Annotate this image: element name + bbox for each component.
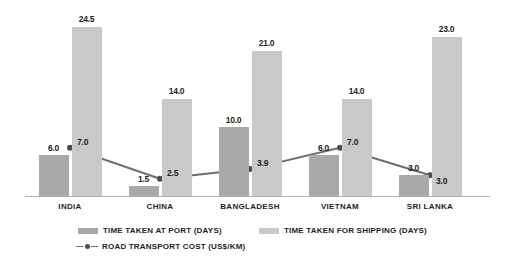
bar-value-port-china: 1.5 [129, 174, 159, 184]
bar-port-india [39, 155, 69, 196]
legend-item-time-taken-at-port[interactable]: TIME TAKEN AT PORT (DAYS) [78, 226, 222, 235]
line-path-road-transport-cost [70, 148, 430, 179]
x-axis-line [25, 196, 490, 197]
legend-label-shipping: TIME TAKEN FOR SHIPPING (DAYS) [284, 226, 427, 235]
bar-port-china [129, 186, 159, 196]
x-axis-label-china: CHINA [110, 202, 210, 211]
bar-port-bangladesh [219, 127, 249, 196]
bar-value-port-vietnam: 6.0 [309, 143, 339, 153]
line-value-sri-lanka: 3.0 [436, 176, 447, 186]
bar-shipping-india [72, 27, 102, 196]
legend-line-dot-icon [76, 243, 98, 251]
bar-value-shipping-india: 24.5 [72, 14, 102, 24]
bar-value-shipping-bangladesh: 21.0 [252, 38, 282, 48]
line-value-india: 7.0 [77, 137, 88, 147]
line-value-bangladesh: 3.9 [257, 158, 268, 168]
bar-shipping-bangladesh [252, 51, 282, 196]
bar-shipping-vietnam [342, 99, 372, 196]
chart-container: 6.024.51.514.010.021.06.014.03.023.07.02… [0, 0, 511, 268]
legend-item-time-taken-for-shipping[interactable]: TIME TAKEN FOR SHIPPING (DAYS) [259, 226, 427, 235]
x-axis-label-india: INDIA [20, 202, 120, 211]
bar-shipping-china [162, 99, 192, 196]
bar-value-port-bangladesh: 10.0 [219, 115, 249, 125]
legend-label-road-transport-cost: ROAD TRANSPORT COST (US$/KM) [102, 242, 245, 251]
x-axis-label-sri-lanka: SRI LANKA [380, 202, 480, 211]
bar-port-vietnam [309, 155, 339, 196]
line-value-china: 2.5 [167, 168, 178, 178]
bar-value-port-india: 6.0 [39, 143, 69, 153]
x-axis-label-bangladesh: BANGLADESH [200, 202, 300, 211]
legend-item-road-transport-cost[interactable]: ROAD TRANSPORT COST (US$/KM) [76, 242, 245, 251]
bar-value-shipping-vietnam: 14.0 [342, 86, 372, 96]
plot-area: 6.024.51.514.010.021.06.014.03.023.07.02… [0, 0, 511, 210]
bar-value-shipping-sri-lanka: 23.0 [432, 24, 462, 34]
legend-swatch-shipping-icon [259, 228, 279, 234]
chart-legend: TIME TAKEN AT PORT (DAYS) TIME TAKEN FOR… [0, 224, 511, 268]
legend-label-port: TIME TAKEN AT PORT (DAYS) [103, 226, 222, 235]
bar-shipping-sri-lanka [432, 37, 462, 196]
bar-value-port-sri-lanka: 3.0 [399, 163, 429, 173]
x-axis-label-vietnam: VIETNAM [290, 202, 390, 211]
bar-value-shipping-china: 14.0 [162, 86, 192, 96]
legend-swatch-port-icon [78, 228, 98, 234]
bar-port-sri-lanka [399, 175, 429, 196]
line-value-vietnam: 7.0 [347, 137, 358, 147]
